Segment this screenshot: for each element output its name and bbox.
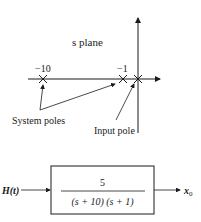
system-poles-label: System poles bbox=[12, 115, 65, 126]
pole-label-minus10: −10 bbox=[35, 63, 51, 74]
tf-numerator: 5 bbox=[100, 177, 105, 188]
input-pole-pointer bbox=[116, 84, 134, 120]
pole-label-minus1: −1 bbox=[117, 63, 128, 74]
diagram-canvas: s plane −10 −1 System poles Input pole H… bbox=[0, 0, 201, 222]
output-label: x0 bbox=[183, 185, 193, 198]
input-label: H(t) bbox=[1, 185, 19, 197]
system-pole-pointer-2 bbox=[40, 84, 115, 110]
s-plane-title: s plane bbox=[72, 36, 103, 48]
input-pole-label: Input pole bbox=[94, 125, 135, 136]
tf-denominator: (s + 10) (s + 1) bbox=[71, 196, 134, 208]
system-pole-pointer-1 bbox=[40, 85, 43, 110]
